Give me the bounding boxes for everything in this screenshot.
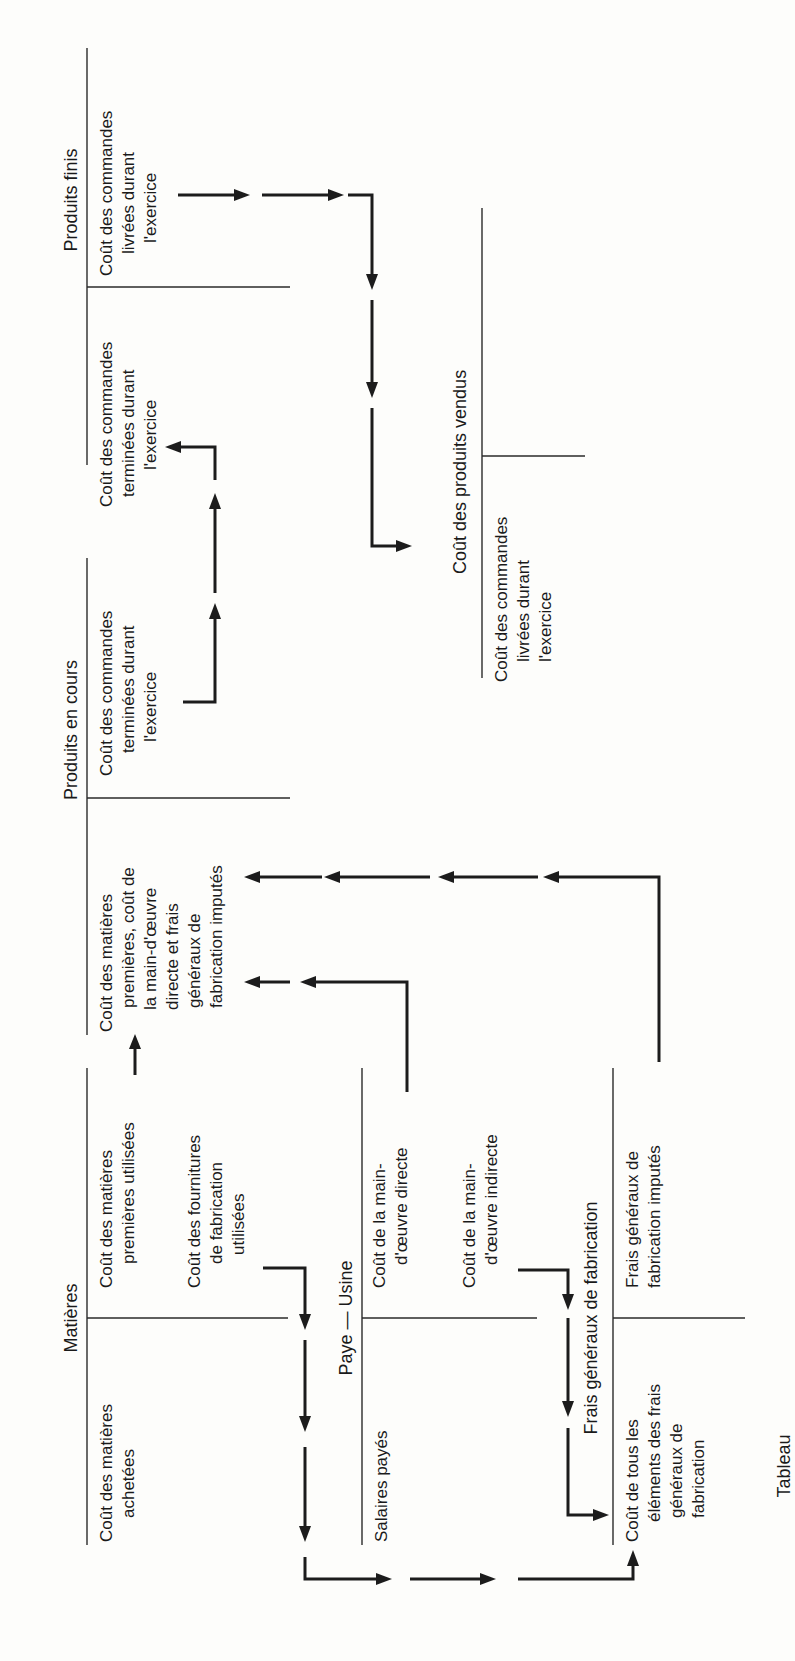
arrow-up-icon xyxy=(209,493,221,509)
flow-main-oeuvre-directe-to-en-cours xyxy=(244,976,407,1092)
debit-line: Coût des matières xyxy=(97,1404,116,1542)
debit-line: Coût des commandes xyxy=(97,342,116,507)
debit-line: généraux de xyxy=(667,1423,686,1518)
arrow-up-icon xyxy=(209,603,221,619)
credit-line: livrées durant xyxy=(119,152,138,254)
credit-line: d'œuvre directe xyxy=(392,1147,411,1265)
flow-produits-finis-to-cout-vendus xyxy=(178,189,412,552)
debit-line: Coût des commandes xyxy=(492,517,511,682)
flow-frais-imputes-to-en-cours xyxy=(244,871,659,1062)
arrow-right-icon xyxy=(328,189,344,201)
credit-line: fabrication imputés xyxy=(645,1145,664,1288)
arrow-left-icon xyxy=(438,871,454,883)
account-title: Produits finis xyxy=(61,148,81,251)
credit-line: Coût des commandes xyxy=(97,111,116,276)
arrow-right-icon xyxy=(480,1573,496,1585)
arrow-left-icon xyxy=(244,976,260,988)
debit-line: Salaires payés xyxy=(372,1430,391,1542)
debit-line: Coût de tous les xyxy=(623,1419,642,1542)
debit-line: terminées durant xyxy=(119,369,138,497)
arrow-left-icon xyxy=(324,871,340,883)
debit-line: directe et frais xyxy=(163,903,182,1010)
debit-line: fabrication xyxy=(689,1440,708,1518)
account-cout-produits-vendus: Coût des produits vendus Coût des comman… xyxy=(450,208,585,682)
credit-line: de fabrication xyxy=(207,1162,226,1264)
arrow-right-icon xyxy=(593,1509,609,1521)
arrow-down-icon xyxy=(366,382,378,398)
credit-line: Coût de la main- xyxy=(370,1163,389,1288)
arrow-right-icon xyxy=(376,1573,392,1585)
debit-line: l'exercice xyxy=(141,400,160,470)
arrow-down-icon xyxy=(299,1416,311,1432)
credit-line: Frais généraux de xyxy=(623,1151,642,1288)
credit-line: l'exercice xyxy=(141,173,160,243)
account-frais-generaux: Frais généraux de fabrication Frais géné… xyxy=(581,1068,745,1545)
credit-line: Coût de la main- xyxy=(460,1163,479,1288)
credit-line: Coût des commandes xyxy=(97,611,116,776)
flow-en-cours-to-produits-finis xyxy=(165,441,221,702)
credit-line: Coût des matières xyxy=(97,1150,116,1288)
credit-line: terminées durant xyxy=(119,625,138,753)
arrow-left-icon xyxy=(543,871,559,883)
debit-line: généraux de xyxy=(185,913,204,1008)
account-title: Coût des produits vendus xyxy=(450,370,470,574)
debit-line: éléments des frais xyxy=(645,1384,664,1522)
debit-line: premières, coût de xyxy=(119,867,138,1008)
debit-line: la main-d'œuvre xyxy=(141,888,160,1010)
account-paye-usine: Paye — Usine Coût de la main- d'œuvre di… xyxy=(336,1068,537,1545)
cost-flow-diagram: Produits finis Coût des commandes livrée… xyxy=(0,0,795,1661)
account-matieres: Matières Coût des matières premières uti… xyxy=(61,1068,288,1545)
arrow-up-icon xyxy=(129,1034,141,1049)
debit-line: l'exercice xyxy=(536,592,555,662)
arrow-right-icon xyxy=(396,540,412,552)
account-produits-en-cours: Produits en cours Coût des commandes ter… xyxy=(61,558,290,1035)
account-title: Produits en cours xyxy=(61,660,81,800)
caption: Tableau xyxy=(774,1434,794,1497)
credit-line: Coût des fournitures xyxy=(185,1135,204,1288)
debit-line: livrées durant xyxy=(514,560,533,662)
credit-line: premières utilisées xyxy=(119,1122,138,1264)
arrow-up-icon xyxy=(627,1550,639,1566)
debit-line: fabrication imputés xyxy=(207,865,226,1008)
credit-line: l'exercice xyxy=(141,672,160,742)
arrow-down-icon xyxy=(366,274,378,290)
debit-line: Coût des matières xyxy=(97,894,116,1032)
arrow-right-icon xyxy=(234,189,250,201)
arrow-down-icon xyxy=(299,1526,311,1542)
arrow-left-icon xyxy=(244,871,260,883)
arrow-left-icon xyxy=(165,441,181,453)
account-title: Paye — Usine xyxy=(336,1260,356,1375)
arrow-down-icon xyxy=(562,1401,574,1417)
account-title: Frais généraux de fabrication xyxy=(581,1201,601,1434)
arrow-down-icon xyxy=(299,1314,311,1330)
debit-line: achetées xyxy=(119,1449,138,1518)
credit-line: d'œuvre indirecte xyxy=(482,1134,501,1265)
arrow-left-icon xyxy=(300,976,316,988)
account-produits-finis: Produits finis Coût des commandes livrée… xyxy=(61,48,290,507)
account-title: Matières xyxy=(61,1283,81,1352)
arrow-down-icon xyxy=(562,1294,574,1310)
credit-line: utilisées xyxy=(229,1194,248,1255)
flow-matieres-premieres-to-en-cours xyxy=(129,1034,141,1075)
